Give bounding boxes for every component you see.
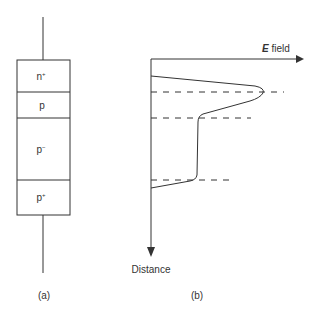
layer-label-p: p [39,100,45,111]
field-plot [147,55,304,257]
field-profile-curve [151,76,263,188]
device-structure: n+ p p− p+ [17,17,70,273]
diagram-canvas: n+ p p− p+ (a) E field Distance [0,0,317,314]
x-axis-arrow-icon [296,55,304,63]
caption-a: (a) [38,290,50,301]
layer-label-p-minus: p− [36,144,46,155]
layer-label-n-plus: n+ [36,71,46,82]
x-axis-label: E field [262,43,290,54]
y-axis-arrow-icon [147,247,155,257]
y-axis-label: Distance [132,264,171,275]
layer-label-p-plus: p+ [36,192,46,203]
caption-b: (b) [191,290,203,301]
